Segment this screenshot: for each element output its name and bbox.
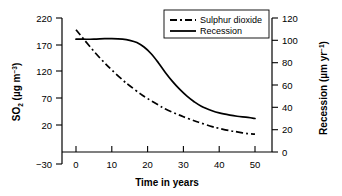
left-axis-title-unit-open: (µg m [11,73,22,103]
right-axis-tick-label-1: 100 [282,35,298,46]
left-axis-tick-label-4: 20 [41,120,52,131]
right-axis-tick-label-2: 80 [282,57,293,68]
chart-container: 220 170 120 70 20 −30 SO2 (µg m−3) 120 [0,0,342,196]
x-axis-tick-label-5: 50 [250,159,261,170]
left-axis-tick-label-2: 120 [36,66,52,77]
right-axis-tick-label-6: 0 [282,147,287,158]
left-axis-title-main: SO [11,107,22,122]
left-axis-tick-label-0: 220 [36,13,52,24]
right-axis-title-main: Recession (µm yr [318,52,329,135]
right-axis-title: Recession (µm yr−1) [318,41,330,135]
right-axis-tick-label-3: 60 [282,80,293,91]
right-axis-tick-label-0: 120 [282,13,298,24]
left-axis-tick-label-5: −30 [36,159,52,170]
x-axis-tick-label-1: 10 [107,159,118,170]
left-axis-title-unit-close: ) [11,63,22,66]
right-axis-tick-label-5: 20 [282,124,293,135]
x-axis-title: Time in years [135,177,199,188]
legend-label-recession: Recession [200,26,242,36]
svg-text:Recession (µm yr−1): Recession (µm yr−1) [318,41,330,135]
x-axis-tick-label-0: 0 [73,159,78,170]
legend: Sulphur dioxide Recession [164,10,269,38]
so2-recession-line-chart: 220 170 120 70 20 −30 SO2 (µg m−3) 120 [0,0,342,196]
x-axis-tick-label-4: 40 [214,159,225,170]
left-axis-tick-label-1: 170 [36,40,52,51]
right-axis-tick-label-4: 40 [282,102,293,113]
left-axis-tick-label-3: 70 [41,93,52,104]
right-axis-title-close: ) [318,41,329,44]
x-axis-tick-label-2: 20 [142,159,153,170]
x-axis-tick-label-3: 30 [178,159,189,170]
legend-label-sulphur-dioxide: Sulphur dioxide [200,15,262,25]
